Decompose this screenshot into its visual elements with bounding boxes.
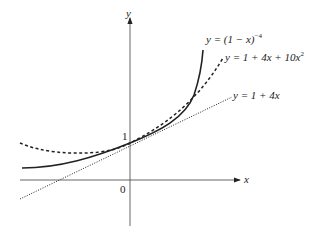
x-axis-label: x xyxy=(244,174,249,185)
label-quadratic: y = 1 + 4x + 10x2 xyxy=(225,51,304,63)
curve-linear xyxy=(20,97,232,199)
y-intercept-label: 1 xyxy=(122,131,128,142)
y-axis-label: y xyxy=(126,8,131,19)
label-linear: y = 1 + 4x xyxy=(233,90,280,101)
origin-label: 0 xyxy=(120,184,126,195)
graph-canvas xyxy=(0,0,319,226)
label-exact: y = (1 − x)−4 xyxy=(206,33,262,45)
